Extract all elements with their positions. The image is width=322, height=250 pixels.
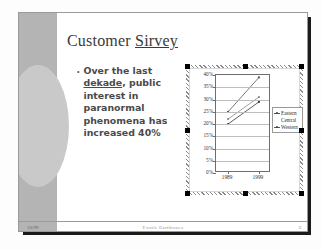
chart-gridline bbox=[216, 87, 269, 88]
chart-gridline bbox=[216, 149, 269, 150]
slide-title[interactable]: Customer Sirvey bbox=[67, 32, 178, 50]
bullet-text: Over the last dekade, public interest in… bbox=[83, 65, 189, 139]
selection-handle-top-left[interactable] bbox=[185, 64, 190, 69]
selection-handle-bottom-left[interactable] bbox=[185, 191, 190, 196]
selection-handle-middle-left[interactable] bbox=[185, 128, 190, 133]
chart-y-tick-label: 20% bbox=[203, 120, 213, 126]
chart-legend-item[interactable]: Central bbox=[274, 117, 301, 124]
chart-y-tick bbox=[213, 149, 216, 150]
chart-legend-label: Central bbox=[281, 117, 296, 123]
selection-handle-bottom-right[interactable] bbox=[299, 191, 304, 196]
chart-data-point bbox=[258, 76, 260, 78]
chart-object[interactable]: 0%5%10%15%20%25%30%35%40% 19891999 Easte… bbox=[186, 65, 303, 195]
chart-plot-area bbox=[215, 74, 270, 172]
slide-canvas[interactable]: Customer Sirvey • Over the last dekade, … bbox=[18, 12, 308, 232]
bullet-text-part1: Over the last bbox=[83, 65, 152, 76]
chart-y-tick bbox=[213, 161, 216, 162]
footer-divider bbox=[19, 221, 307, 222]
legend-marker-icon bbox=[274, 117, 280, 123]
selection-handle-top-right[interactable] bbox=[299, 64, 304, 69]
chart-series-line bbox=[228, 102, 259, 124]
slide-body-placeholder[interactable]: • Over the last dekade, public interest … bbox=[77, 65, 189, 139]
chart-y-tick bbox=[213, 100, 216, 101]
chart-y-tick-label: 5% bbox=[206, 157, 213, 163]
title-text-prefix: Customer bbox=[67, 32, 135, 49]
decorative-ellipse bbox=[18, 65, 69, 187]
selection-handle-top-center[interactable] bbox=[243, 64, 248, 69]
legend-marker-icon bbox=[274, 124, 280, 130]
chart-y-tick-label: 35% bbox=[203, 83, 213, 89]
chart-gridline bbox=[216, 100, 269, 101]
chart-legend-label: Eastern bbox=[281, 110, 297, 116]
chart-y-tick-label: 0% bbox=[206, 169, 213, 175]
chart-data-point bbox=[227, 118, 229, 120]
legend-marker-icon bbox=[274, 110, 280, 116]
chart-data-point bbox=[258, 96, 260, 98]
bullet-dot-icon: • bbox=[77, 65, 79, 78]
chart-y-tick bbox=[213, 112, 216, 113]
chart-y-tick-label: 40% bbox=[203, 71, 213, 77]
chart-y-tick bbox=[213, 75, 216, 76]
bullet-misspelled-word: dekade bbox=[83, 77, 122, 88]
chart-y-tick-label: 10% bbox=[203, 145, 213, 151]
chart-data-point bbox=[258, 101, 260, 103]
footer-page-number: 3 bbox=[299, 225, 302, 230]
chart-area[interactable]: 0%5%10%15%20%25%30%35%40% 19891999 Easte… bbox=[189, 68, 300, 192]
bullet-item: • Over the last dekade, public interest … bbox=[77, 65, 189, 139]
chart-y-tick bbox=[213, 124, 216, 125]
chart-y-tick-label: 30% bbox=[203, 96, 213, 102]
chart-gridline bbox=[216, 112, 269, 113]
chart-legend-item[interactable]: Western bbox=[274, 124, 301, 131]
chart-legend-item[interactable]: Eastern bbox=[274, 110, 301, 117]
chart-y-tick bbox=[213, 87, 216, 88]
chart-gridline bbox=[216, 124, 269, 125]
selection-handle-middle-right[interactable] bbox=[299, 128, 304, 133]
screenshot-root: Customer Sirvey • Over the last dekade, … bbox=[0, 0, 322, 250]
chart-legend-label: Western bbox=[281, 124, 298, 130]
chart-plot-wrapper: 0%5%10%15%20%25%30%35%40% 19891999 Easte… bbox=[194, 74, 299, 192]
chart-y-tick-label: 25% bbox=[203, 108, 213, 114]
chart-y-tick-label: 15% bbox=[203, 132, 213, 138]
chart-x-tick-label: 1989 bbox=[222, 174, 233, 180]
chart-y-axis-labels: 0%5%10%15%20%25%30%35%40% bbox=[194, 74, 214, 172]
chart-series-line bbox=[228, 77, 259, 111]
chart-y-tick bbox=[213, 136, 216, 137]
chart-x-axis-labels: 19891999 bbox=[215, 174, 270, 186]
title-misspelled-word: Sirvey bbox=[135, 32, 178, 49]
chart-gridline bbox=[216, 161, 269, 162]
chart-x-tick-label: 1999 bbox=[253, 174, 264, 180]
decorative-left-band bbox=[19, 13, 57, 231]
chart-gridline bbox=[216, 136, 269, 137]
footer-center-text: Exotic Earthtones bbox=[19, 225, 307, 230]
selection-handle-bottom-center[interactable] bbox=[243, 191, 248, 196]
